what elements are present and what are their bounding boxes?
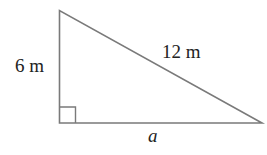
vertical-leg-label: 6 m: [15, 56, 44, 75]
horizontal-leg-label: a: [148, 126, 158, 145]
right-triangle: [60, 11, 263, 124]
right-angle-marker: [60, 107, 76, 123]
triangle-figure: [0, 0, 267, 155]
hypotenuse-label: 12 m: [162, 42, 201, 61]
